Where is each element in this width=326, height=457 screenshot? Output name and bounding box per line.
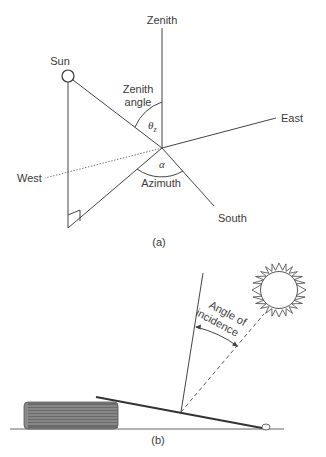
tilted-surface <box>96 397 262 428</box>
azimuth-label: Azimuth <box>141 177 181 189</box>
figure-b-caption: (b) <box>151 434 164 446</box>
sun-icon-rayed <box>252 263 306 317</box>
alpha-symbol: α <box>159 158 165 170</box>
east-label: East <box>281 112 303 124</box>
figure-a-caption: (a) <box>152 236 165 248</box>
west-label: West <box>17 172 42 184</box>
solar-geometry-diagram: Zenith Sun East West South Zenith angle … <box>0 0 326 457</box>
book-icon <box>24 402 118 429</box>
theta-symbol: θz <box>148 119 157 134</box>
figure-b: Angle of incidence (b) <box>10 263 306 446</box>
figure-a: Zenith Sun East West South Zenith angle … <box>17 14 303 248</box>
arc-arrowhead-right <box>232 342 238 348</box>
pebble <box>262 424 270 430</box>
surface-normal <box>181 273 203 412</box>
sun-icon <box>62 70 74 82</box>
arc-arrowhead-left <box>195 325 201 330</box>
azimuth-arc <box>137 169 183 177</box>
zenith-angle-label-line2: angle <box>125 96 152 108</box>
zenith-label: Zenith <box>147 14 178 26</box>
sun-label: Sun <box>50 55 70 67</box>
zenith-angle-label-line1: Zenith <box>123 83 154 95</box>
angle-of-incidence-label: Angle of incidence <box>194 295 249 340</box>
south-label: South <box>218 212 247 224</box>
east-axis <box>162 118 276 148</box>
